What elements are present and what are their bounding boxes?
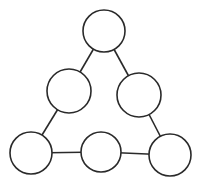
triangle-graph-diagram [0,0,202,186]
node-mid-right [117,73,161,117]
nodes [10,10,191,176]
node-bottom-left [10,132,52,174]
node-top [83,10,125,52]
node-bottom-right [149,134,191,176]
node-mid-left [47,69,91,113]
node-bottom-mid [81,132,121,172]
